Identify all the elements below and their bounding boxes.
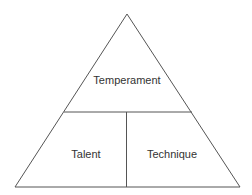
pyramid-diagram: Temperament Talent Technique <box>0 0 252 195</box>
pyramid-outline <box>15 14 240 187</box>
talent-label: Talent <box>71 148 100 160</box>
technique-label: Technique <box>147 148 197 160</box>
temperament-label: Temperament <box>93 74 160 86</box>
